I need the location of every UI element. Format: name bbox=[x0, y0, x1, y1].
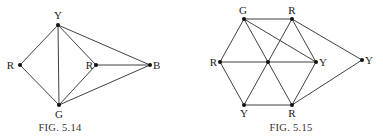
edge bbox=[220, 62, 244, 105]
vertex-label: R bbox=[210, 56, 218, 68]
edge bbox=[20, 25, 58, 65]
edge bbox=[58, 25, 59, 105]
vertex bbox=[18, 63, 22, 67]
vertex bbox=[148, 63, 152, 67]
figure-5-14-caption: FIG. 5.14 bbox=[38, 122, 82, 133]
figure-5-15-edges bbox=[220, 19, 362, 105]
vertex bbox=[314, 60, 318, 64]
edge bbox=[220, 19, 244, 62]
vertex bbox=[57, 103, 61, 107]
vertex bbox=[360, 58, 364, 62]
vertex-label: Y bbox=[319, 56, 327, 68]
edge bbox=[292, 19, 316, 62]
edge bbox=[244, 62, 268, 105]
vertex-label: Y bbox=[54, 9, 62, 21]
vertex-label: G bbox=[239, 4, 247, 16]
vertex bbox=[56, 23, 60, 27]
edge bbox=[292, 62, 316, 105]
vertex bbox=[242, 17, 246, 21]
vertex bbox=[266, 60, 270, 64]
figure-5-14: YRRBG FIG. 5.14 bbox=[7, 9, 161, 133]
vertex-label: R bbox=[288, 4, 296, 16]
edge bbox=[268, 19, 292, 62]
edge bbox=[59, 65, 150, 105]
edge bbox=[292, 60, 362, 105]
vertex-label: Y bbox=[365, 54, 373, 66]
figure-5-15: GRRYYYR FIG. 5.15 bbox=[210, 4, 373, 133]
edge bbox=[58, 25, 150, 65]
edge bbox=[59, 65, 96, 105]
vertex-label: R bbox=[7, 59, 15, 71]
vertex-label: Y bbox=[240, 107, 248, 119]
edge bbox=[244, 19, 268, 62]
figure-5-15-caption: FIG. 5.15 bbox=[269, 122, 312, 133]
vertex bbox=[290, 17, 294, 21]
vertex-label: R bbox=[86, 59, 94, 71]
vertex bbox=[218, 60, 222, 64]
edge bbox=[268, 62, 292, 105]
vertex-label: G bbox=[55, 108, 63, 120]
figure-5-15-labels: GRRYYYR bbox=[210, 4, 373, 119]
vertex bbox=[94, 63, 98, 67]
vertex-label: R bbox=[288, 107, 296, 119]
figure-5-14-labels: YRRBG bbox=[7, 9, 161, 120]
graph-coloring-figures: YRRBG FIG. 5.14 GRRYYYR FIG. 5.15 bbox=[0, 0, 383, 140]
vertex-label: B bbox=[153, 59, 160, 71]
edge bbox=[20, 65, 59, 105]
